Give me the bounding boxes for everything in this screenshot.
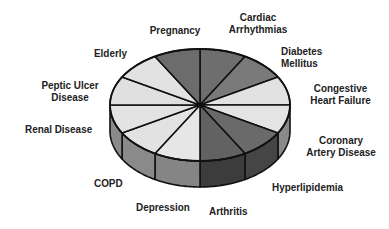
label-text: Arrhythmias (222, 23, 294, 35)
label-text: Cardiac (222, 11, 294, 23)
label-text: Disease (38, 91, 103, 103)
label-text: Mellitus (281, 57, 322, 69)
label-coronary-artery-disease: Coronary Artery Disease (301, 134, 382, 158)
label-text: Depression (136, 201, 190, 213)
label-text: Coronary (301, 134, 382, 146)
pie-center-hub (198, 103, 203, 108)
label-renal-disease: Renal Disease (25, 123, 92, 135)
label-text: Renal Disease (25, 123, 92, 135)
label-text: Artery Disease (301, 146, 382, 158)
label-copd: COPD (94, 177, 123, 189)
label-pregnancy: Pregnancy (144, 24, 207, 36)
label-diabetes-mellitus: Diabetes Mellitus (281, 45, 322, 69)
label-text: Heart Failure (302, 94, 379, 106)
label-text: Hyperlipidemia (272, 181, 343, 193)
label-congestive-heart-failure: Congestive Heart Failure (302, 82, 379, 106)
label-text: Congestive (302, 82, 379, 94)
label-hyperlipidemia: Hyperlipidemia (272, 181, 343, 193)
label-elderly: Elderly (94, 47, 127, 59)
label-peptic-ulcer-disease: Peptic Ulcer Disease (38, 79, 103, 103)
label-text: Peptic Ulcer (38, 79, 103, 91)
label-text: Elderly (94, 47, 127, 59)
label-arthritis: Arthritis (209, 205, 248, 217)
label-text: Diabetes (281, 45, 322, 57)
label-text: Arthritis (209, 205, 248, 217)
label-cardiac-arrhythmias: Cardiac Arrhythmias (222, 11, 294, 35)
label-text: Pregnancy (144, 24, 207, 36)
label-text: COPD (94, 177, 123, 189)
label-depression: Depression (136, 201, 190, 213)
